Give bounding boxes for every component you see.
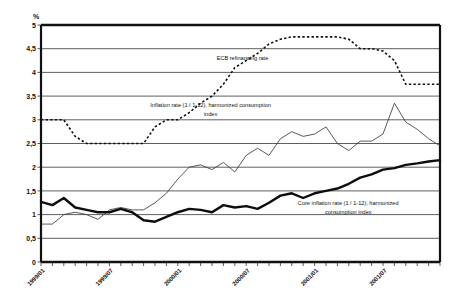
ecb-refinancing-rate-label: ECB refinancing rate: [217, 55, 269, 61]
y-axis-unit-group: %: [33, 13, 40, 20]
core-inflation-rate-label-line2: consumption index: [325, 209, 372, 215]
y-axis-tick-label: 0,5: [26, 235, 36, 243]
chart-container: % 54,543,532,521,510,50 1999/011999/0720…: [0, 0, 468, 301]
y-axis-tick-label: 4: [32, 69, 36, 76]
y-axis-tick-label: 2: [32, 164, 36, 171]
x-axis-tick-label: 2001/07: [368, 267, 388, 287]
y-axis-tick-label: 1,5: [26, 188, 36, 196]
x-axis-tick-label: 1999/07: [95, 267, 115, 287]
core-inflation-rate-label-line1: Core inflation rate (1 / 1-12), harmoniz…: [298, 200, 399, 206]
y-axis-tick-label: 4,5: [26, 45, 36, 53]
x-axis-tick-labels: 1999/011999/072000/012000/072001/012001/…: [26, 267, 388, 287]
inflation-rate-label-line2: index: [204, 111, 218, 117]
x-axis-tick-label: 2001/01: [300, 267, 320, 287]
inflation-rate-label-line1: Inflation rate (1 / 1-12), harmonized co…: [150, 102, 271, 108]
series-line-ecb-refinancing-rate: [41, 37, 440, 144]
y-axis-tick-label: 3,5: [26, 93, 36, 101]
y-axis-tick-label: 5: [32, 22, 36, 29]
x-axis-tick-label: 1999/01: [26, 267, 46, 287]
x-axis-tick-label: 2000/07: [231, 267, 251, 287]
inflation-and-policy-rate-chart: % 54,543,532,521,510,50 1999/011999/0720…: [0, 0, 468, 301]
y-axis-tick-label: 1: [32, 211, 36, 218]
y-axis-tick-label: 3: [32, 116, 36, 123]
y-axis-tick-label: 0: [32, 259, 36, 266]
data-series: [41, 37, 440, 224]
y-axis-tick-labels: 54,543,532,521,510,50: [26, 22, 36, 266]
y-axis-tick-label: 2,5: [26, 140, 36, 148]
y-axis-unit-label: %: [33, 13, 40, 20]
x-axis-tick-label: 2000/01: [163, 267, 183, 287]
